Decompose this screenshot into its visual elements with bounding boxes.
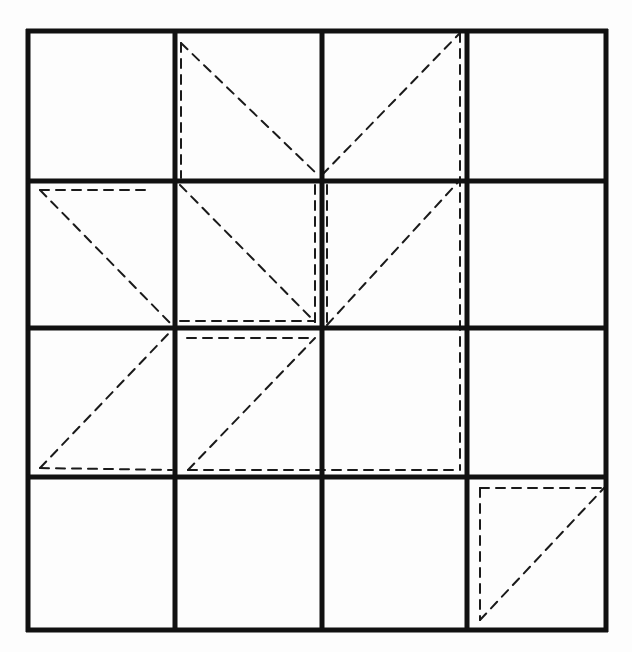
dashed-line xyxy=(40,330,172,468)
grid-diagram xyxy=(0,0,632,652)
dashed-line xyxy=(188,338,315,470)
dashed-line xyxy=(40,190,172,325)
dashed-line xyxy=(327,180,460,325)
dashed-line xyxy=(180,185,315,322)
dashed-line xyxy=(40,468,172,470)
dashed-line xyxy=(480,488,604,620)
dashed-line xyxy=(181,43,318,175)
dashed-line xyxy=(322,33,460,175)
